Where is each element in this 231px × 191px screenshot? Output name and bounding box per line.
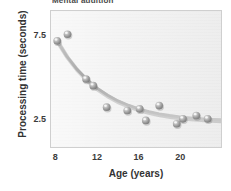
data-point (82, 75, 91, 84)
data-point (103, 103, 112, 112)
data-point (142, 117, 151, 126)
data-point (204, 115, 213, 124)
chart-figure: Mental addition 8121620 2.57.5 (0, 0, 231, 191)
x-axis-title: Age (years) (50, 168, 222, 180)
plot-svg (51, 11, 221, 147)
y-axis-title: Processing time (seconds) (17, 4, 29, 144)
data-point (64, 30, 73, 39)
x-tick-label: 16 (129, 152, 149, 162)
data-points-group (53, 30, 212, 129)
x-tick-label: 12 (87, 152, 107, 162)
chart-title: Mental addition (52, 0, 222, 4)
data-point (136, 105, 145, 114)
plot-area (50, 10, 222, 148)
data-point (89, 82, 98, 91)
x-tick-label: 20 (170, 152, 190, 162)
data-point (155, 102, 164, 111)
data-point (53, 37, 62, 46)
x-tick-label: 8 (45, 152, 65, 162)
